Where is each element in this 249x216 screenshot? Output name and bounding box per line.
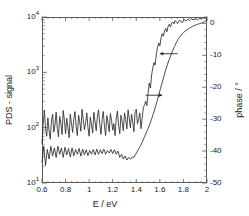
ytick-label-right: -40	[210, 147, 222, 155]
xtick-label: 1.4	[131, 186, 142, 194]
ytick-label-left: 102	[27, 124, 39, 132]
ytick-exponent: 2	[36, 121, 39, 127]
pds-signal-curve	[42, 17, 207, 143]
ytick-label-right: 0	[210, 19, 214, 27]
ytick-label-right: -50	[210, 179, 222, 187]
x-axis-title: E / eV	[93, 199, 118, 209]
ytick-mantissa: 10	[27, 123, 36, 132]
ytick-label-right: -20	[210, 83, 222, 91]
xtick-label: 1.6	[154, 186, 165, 194]
y-axis-title-right: phase / °	[234, 82, 244, 118]
xtick-label: 1	[87, 186, 91, 194]
xtick-label: 2	[205, 186, 209, 194]
ytick-exponent: 1	[36, 176, 39, 182]
ytick-mantissa: 10	[27, 67, 36, 76]
xtick-label: 1.8	[178, 186, 189, 194]
ytick-mantissa: 10	[27, 12, 36, 21]
ytick-label-right: -30	[210, 115, 222, 123]
ytick-label-right: -10	[210, 51, 222, 59]
xtick-label: 1.2	[107, 186, 118, 194]
arrow-to-pds-curve	[160, 52, 178, 56]
xtick-label: 0.6	[36, 186, 47, 194]
ytick-mantissa: 10	[27, 178, 36, 187]
ytick-exponent: 4	[36, 10, 39, 16]
ytick-label-left: 101	[27, 179, 39, 187]
ytick-label-left: 104	[27, 13, 39, 21]
phase-curve	[42, 20, 207, 166]
plot-canvas	[42, 17, 207, 183]
ytick-exponent: 3	[36, 66, 39, 72]
xtick-label: 0.8	[60, 186, 71, 194]
ytick-label-left: 103	[27, 68, 39, 76]
y-axis-title-left: PDS - signal	[4, 75, 14, 125]
pds-phase-spectrum-figure: 0.6 0.8 1 1.2 1.4 1.6 1.8 2 104 103 102 …	[0, 0, 249, 216]
